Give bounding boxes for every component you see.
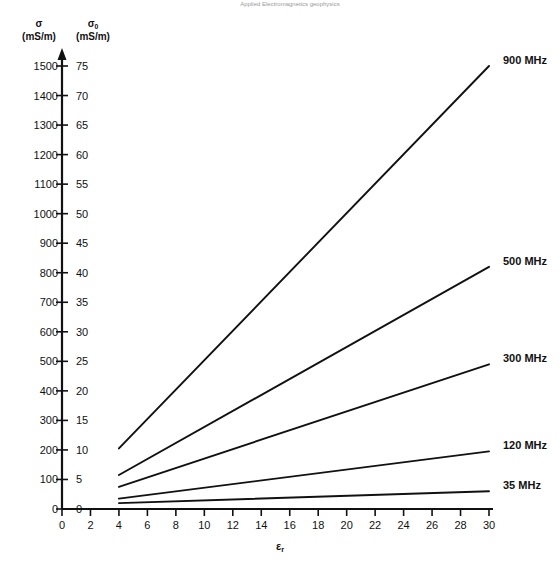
plot-surface <box>0 0 560 574</box>
curve-35-mhz <box>119 491 489 503</box>
curve-label-300-mhz: 300 MHz <box>503 352 547 365</box>
y-axis-right-tick-label: 50 <box>76 208 106 220</box>
y-axis-right-tick-label: 70 <box>76 90 106 102</box>
y-axis-left-tick-label: 200 <box>14 444 58 456</box>
x-axis-tick-label: 0 <box>50 519 74 532</box>
y-axis-left-tick-label: 1100 <box>14 178 58 190</box>
x-axis-tick-label: 2 <box>78 519 102 532</box>
y-axis-left-tick-label: 500 <box>14 355 58 367</box>
curve-900-mhz <box>119 66 489 448</box>
x-axis-tick-label: 26 <box>420 519 444 532</box>
curve-label-500-mhz: 500 MHz <box>503 255 547 268</box>
y-axis-left-tick-label: 1200 <box>14 149 58 161</box>
y-axis-left-tick-label: 0 <box>14 503 58 515</box>
y-axis-right-tick-label: 20 <box>76 385 106 397</box>
y-axis-left-tick-label: 1400 <box>14 90 58 102</box>
y-axis-arrow <box>58 48 67 60</box>
x-axis-tick-label: 4 <box>107 519 131 532</box>
x-axis-tick-label: 16 <box>278 519 302 532</box>
y-axis-right-tick-label: 40 <box>76 267 106 279</box>
y-axis-left-tick-label: 800 <box>14 267 58 279</box>
x-axis-tick-label: 22 <box>363 519 387 532</box>
curve-label-900-mhz: 900 MHz <box>503 54 547 67</box>
x-axis-tick-label: 8 <box>164 519 188 532</box>
y-axis-right-tick-label: 65 <box>76 119 106 131</box>
x-axis-tick-label: 28 <box>449 519 473 532</box>
curve-300-mhz <box>119 364 489 487</box>
y-axis-right-tick-label: 0 <box>76 503 106 515</box>
y-axis-right-tick-label: 10 <box>76 444 106 456</box>
y-axis-right-tick-label: 75 <box>76 60 106 72</box>
y-axis-left-tick-label: 1300 <box>14 119 58 131</box>
y-axis-left-tick-label: 1500 <box>14 60 58 72</box>
y-axis-left-tick-label: 400 <box>14 385 58 397</box>
y-axis-left-tick-label: 600 <box>14 326 58 338</box>
y-axis-left-tick-label: 1000 <box>14 208 58 220</box>
y-axis-right-tick-label: 60 <box>76 149 106 161</box>
x-axis-tick-label: 20 <box>335 519 359 532</box>
y-axis-left-tick-label: 300 <box>14 414 58 426</box>
x-axis-tick-label: 12 <box>221 519 245 532</box>
curve-label-35-mhz: 35 MHz <box>503 479 541 492</box>
x-axis-tick-label: 24 <box>392 519 416 532</box>
x-axis-tick-label: 10 <box>192 519 216 532</box>
y-axis-left-tick-label: 900 <box>14 237 58 249</box>
y-axis-left-tick-label: 100 <box>14 473 58 485</box>
x-axis-tick-label: 18 <box>306 519 330 532</box>
curve-label-120-mhz: 120 MHz <box>503 439 547 452</box>
y-axis-right-tick-label: 55 <box>76 178 106 190</box>
chart-figure: Applied Electromagnetics geophysics σ (m… <box>0 0 560 574</box>
x-axis-tick-label: 6 <box>135 519 159 532</box>
x-axis-tick-label: 30 <box>477 519 501 532</box>
y-axis-right-tick-label: 25 <box>76 355 106 367</box>
y-axis-right-tick-label: 5 <box>76 473 106 485</box>
curve-120-mhz <box>119 451 489 498</box>
y-axis-left-tick-label: 700 <box>14 296 58 308</box>
y-axis-right-tick-label: 45 <box>76 237 106 249</box>
y-axis-right-tick-label: 35 <box>76 296 106 308</box>
y-axis-right-tick-label: 30 <box>76 326 106 338</box>
x-axis-tick-label: 14 <box>249 519 273 532</box>
y-axis-right-tick-label: 15 <box>76 414 106 426</box>
curve-500-mhz <box>119 267 489 475</box>
